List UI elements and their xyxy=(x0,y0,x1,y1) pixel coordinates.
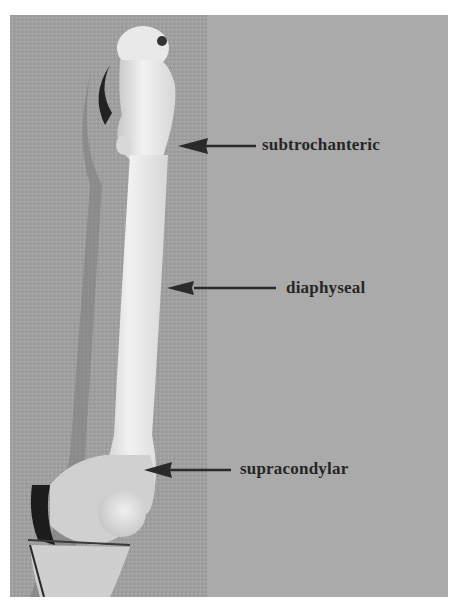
femur-photo xyxy=(10,15,448,597)
label-supracondylar: supracondylar xyxy=(240,459,348,479)
femur-illustration xyxy=(10,15,448,597)
label-diaphyseal: diaphyseal xyxy=(286,278,365,298)
lesser-trochanter xyxy=(116,135,132,155)
medial-condyle xyxy=(98,489,146,537)
plain-background xyxy=(207,15,448,597)
label-subtrochanteric: subtrochanteric xyxy=(262,135,380,155)
